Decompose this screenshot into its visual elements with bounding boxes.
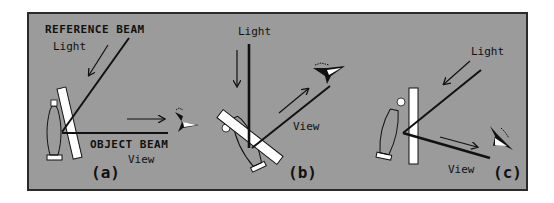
diagram-canvas: REFERENCE BEAM Light OBJECT BEAM View (a… <box>0 0 554 203</box>
light-label-c: Light <box>471 45 504 58</box>
hologram-diagram: REFERENCE BEAM Light OBJECT BEAM View (a… <box>0 0 554 203</box>
reference-beam-label: REFERENCE BEAM <box>45 23 145 36</box>
panel-label-a: (a) <box>91 163 120 182</box>
object-beam-label: OBJECT BEAM <box>90 138 168 151</box>
object-head <box>397 98 405 106</box>
view-label-c: View <box>448 163 475 176</box>
light-label-a: Light <box>53 40 86 53</box>
view-label-b: View <box>293 120 320 133</box>
view-label-a: View <box>128 153 155 166</box>
panel-label-b: (b) <box>288 163 317 182</box>
panel-label-c: (c) <box>493 163 522 182</box>
light-label-b: Light <box>238 25 271 38</box>
